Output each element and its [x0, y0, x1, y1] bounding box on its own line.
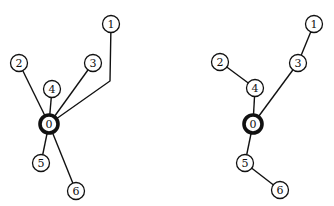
node-5: 5	[237, 155, 254, 172]
node-label: 3	[295, 57, 302, 70]
edge-0-1	[49, 24, 111, 124]
node-label: 3	[90, 57, 97, 70]
node-3: 3	[290, 55, 307, 72]
diagram-canvas: 0123456 0123456	[0, 0, 334, 206]
node-label: 4	[49, 83, 56, 96]
node-label: 5	[38, 157, 45, 170]
node-2: 2	[212, 54, 229, 71]
node-5: 5	[33, 155, 50, 172]
node-label: 0	[46, 118, 53, 131]
node-label: 2	[16, 57, 23, 70]
right-tree: 0123456	[212, 16, 323, 199]
left-tree: 0123456	[11, 16, 120, 200]
node-label: 0	[250, 118, 257, 131]
node-label: 1	[311, 18, 318, 31]
node-6: 6	[272, 182, 289, 199]
node-label: 6	[277, 184, 284, 197]
node-label: 4	[252, 82, 259, 95]
node-6: 6	[68, 183, 85, 200]
node-4: 4	[247, 80, 264, 97]
node-2: 2	[11, 55, 28, 72]
node-label: 5	[242, 157, 249, 170]
node-4: 4	[44, 81, 61, 98]
edge-0-6	[49, 124, 76, 191]
root-node-0: 0	[244, 115, 262, 133]
node-1: 1	[306, 16, 323, 33]
node-label: 6	[73, 185, 80, 198]
root-node-0: 0	[40, 115, 58, 133]
node-3: 3	[85, 55, 102, 72]
node-label: 2	[217, 56, 224, 69]
node-1: 1	[103, 16, 120, 33]
node-label: 1	[108, 18, 115, 31]
